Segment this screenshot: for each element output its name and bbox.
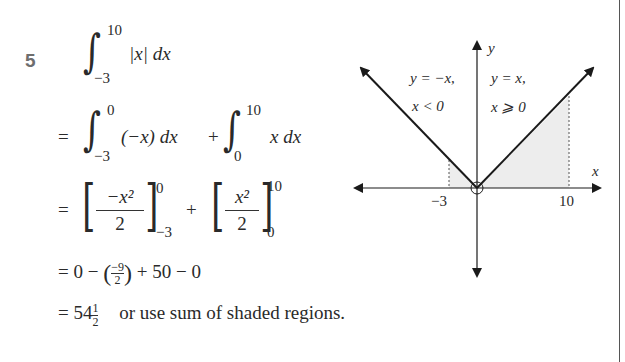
x-axis-label: x bbox=[592, 163, 599, 180]
left-branch-label: y = −x, bbox=[410, 70, 455, 87]
y-axis-label: y bbox=[488, 40, 495, 57]
right-branch-condition: x ⩾ 0 bbox=[491, 98, 526, 116]
right-branch-label: y = x, bbox=[491, 70, 526, 87]
tick-label-right: 10 bbox=[559, 193, 574, 210]
left-branch-condition: x < 0 bbox=[412, 98, 444, 115]
tick-label-left: −3 bbox=[431, 193, 447, 210]
abs-value-graph bbox=[0, 0, 625, 362]
